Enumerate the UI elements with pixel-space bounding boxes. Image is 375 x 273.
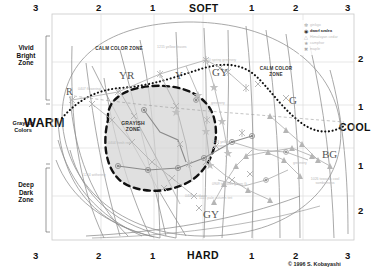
legend-item-ginkgo[interactable]: ✻ ginkgo bbox=[302, 23, 350, 28]
point-label-1113-yellow-greenery: 1113 yellow greenery bbox=[208, 140, 234, 148]
color-image-scale-chart: 3 2 1 SOFT 1 2 3 3 2 1 HARD 1 2 3 2 1 CO… bbox=[0, 0, 375, 273]
legend-item-maple[interactable]: ✖ maple bbox=[302, 47, 350, 52]
himalayan-cedar-marker-icon: △ bbox=[302, 35, 309, 40]
legend-label-himalayan-cedar: Himalayan cedar bbox=[310, 35, 338, 39]
legend-label-ginkgo: ginkgo bbox=[310, 23, 321, 27]
legend-label-camphor: camphor bbox=[310, 41, 324, 45]
point-label-0406-northern: 0406 northern bbox=[185, 194, 207, 198]
copyright-notice: © 1996 S. Kobayashi bbox=[288, 261, 341, 267]
legend-item-dwarf-azalea[interactable]: ◉ dwarf azalea bbox=[302, 29, 350, 34]
point-label-0407-flowering: 0407 flowering bbox=[78, 87, 101, 91]
hue-label-bg: BG bbox=[322, 148, 337, 160]
point-label-0404-fresh-red: 0404 fresh red bbox=[108, 141, 131, 145]
point-label-1026-towards-cool-somberness: 1026 towards cool somberness bbox=[303, 177, 347, 185]
legend: ✻ ginkgo ◉ dwarf azalea △ Himalayan ceda… bbox=[299, 20, 353, 55]
hue-label-y: Y bbox=[175, 69, 183, 81]
legend-label-dwarf-azalea: dwarf azalea bbox=[310, 29, 332, 33]
point-label-1215-yellow-leaves: 1215 yellow leaves bbox=[157, 45, 187, 49]
calm-color-zone-right-label: CALM COLORZONE bbox=[249, 66, 303, 77]
point-label-1214-withering: 1214 withering bbox=[83, 173, 106, 177]
legend-item-camphor[interactable]: ★ camphor bbox=[302, 41, 350, 46]
point-label-greenery-right: greenery bbox=[293, 161, 307, 165]
point-label-0410-spring-greenery: 0410 spring greenery bbox=[203, 58, 236, 62]
grayish-zone-label: GRAYISHZONE bbox=[112, 120, 154, 133]
hue-label-r: R bbox=[66, 86, 73, 97]
marker-himalayan-cedar bbox=[211, 113, 333, 205]
hue-label-g: G bbox=[289, 94, 297, 106]
legend-label-maple: maple bbox=[310, 47, 320, 51]
legend-item-himalayan-cedar[interactable]: △ Himalayan cedar bbox=[302, 35, 350, 40]
camphor-marker-icon: ★ bbox=[302, 41, 309, 46]
maple-marker-icon: ✖ bbox=[302, 47, 309, 52]
hue-label-yr: YR bbox=[119, 69, 134, 81]
hue-label-gy-top: GY bbox=[212, 66, 228, 78]
point-label-greenery-top: greenery bbox=[211, 101, 225, 105]
point-label-0909-towards-green-g: 0909 towards green G bbox=[212, 182, 247, 186]
hue-label-gy-bottom: GY bbox=[203, 208, 219, 220]
calm-color-zone-left-label: CALM COLOR ZONE bbox=[84, 46, 154, 52]
